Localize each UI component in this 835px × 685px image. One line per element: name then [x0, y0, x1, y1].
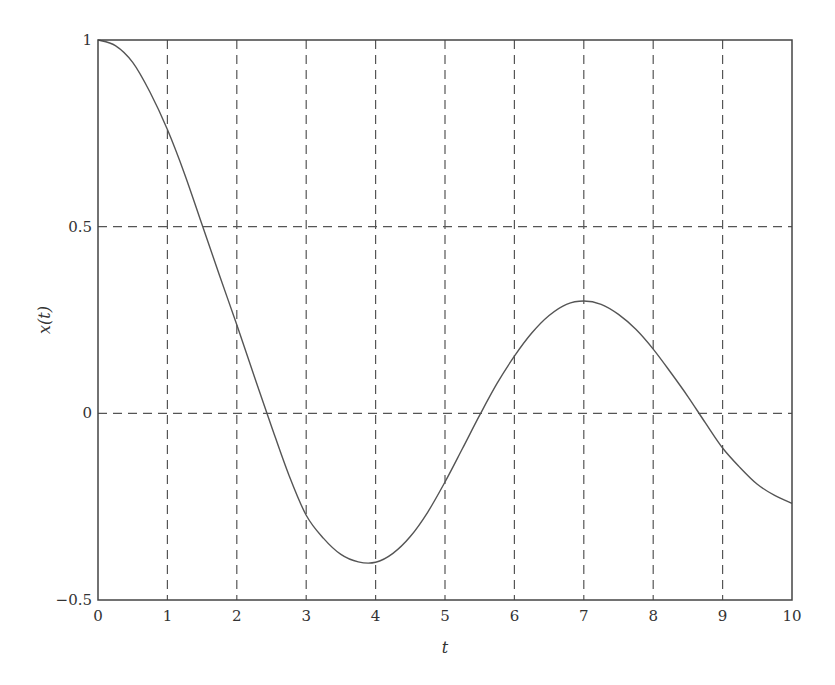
x-tick-label: 5	[440, 607, 450, 625]
y-axis-label: x(t)	[35, 306, 54, 334]
x-tick-label: 3	[301, 607, 311, 625]
x-tick-label: 1	[163, 607, 173, 625]
x-tick-label: 4	[371, 607, 381, 625]
x-tick-label: 10	[782, 607, 801, 625]
x-axis-ticks: 012345678910	[93, 607, 801, 625]
x-tick-label: 0	[93, 607, 103, 625]
x-tick-label: 8	[648, 607, 658, 625]
grid-lines	[98, 40, 792, 600]
y-tick-label: 0	[82, 404, 92, 422]
y-axis-ticks: −0.500.51	[56, 31, 92, 609]
y-tick-label: −0.5	[56, 591, 92, 609]
x-tick-label: 7	[579, 607, 589, 625]
y-tick-label: 1	[82, 31, 92, 49]
line-chart: 012345678910 −0.500.51 t x(t)	[0, 0, 835, 685]
y-tick-label: 0.5	[68, 218, 92, 236]
x-axis-label: t	[442, 638, 449, 657]
x-tick-label: 2	[232, 607, 242, 625]
x-tick-label: 9	[718, 607, 728, 625]
x-tick-label: 6	[510, 607, 520, 625]
